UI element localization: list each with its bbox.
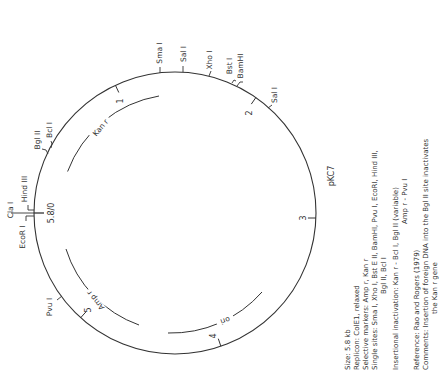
site-label-ecori: EcoR I [18, 225, 27, 248]
site-label-clai: Cla I [6, 202, 15, 219]
tick-2 [251, 98, 256, 105]
info-replicon: Replicon: ColE1, relaxed [353, 285, 361, 370]
site-label-xhoi: Xho I [205, 50, 214, 69]
tick-1 [115, 85, 118, 92]
origin-label: 5.8/0 [47, 203, 56, 224]
site-label-bcli: Bcl I [45, 122, 54, 138]
plasmid-map-figure: Kan r Amp r ori 5.8/0 1 2 3 [0, 0, 447, 374]
kan-gene-label: Kan r [88, 114, 112, 140]
tick-label-2: 2 [245, 110, 254, 115]
info-size: Size: 5.8 kb [344, 329, 352, 370]
tick-label-1: 1 [116, 98, 125, 103]
ori-arc [168, 292, 262, 333]
plasmid-name: pKC7 [327, 166, 336, 187]
site-label-hindiii: Hind III [20, 176, 29, 202]
site-tick-sali-2 [268, 105, 272, 108]
tick-label-5: 5 [84, 307, 93, 312]
info-block: Size: 5.8 kb Replicon: ColE1, relaxed Se… [344, 138, 439, 370]
info-reference: Reference: Rao and Rogers (1979) [413, 249, 421, 370]
info-markers: Selective markers: Amp r, Kan r [362, 259, 370, 370]
site-label-bglii: Bgl II [33, 131, 42, 150]
info-single-sites-1: Single sites: Sma I, Xho I, Bst E II, Ba… [371, 150, 379, 370]
tick-4 [218, 339, 221, 347]
info-single-sites-2: Bgl II, Bcl I [380, 257, 388, 294]
site-label-smai: Sma I [155, 42, 164, 63]
site-tick-xhoi [209, 71, 211, 76]
tick-label-3: 3 [299, 215, 308, 220]
site-label-bamhi: BamHI [236, 54, 245, 79]
kan-gene-arc-line [55, 180, 65, 262]
site-label-sali-1: Sal I [179, 46, 188, 62]
info-comments-1: Comments: Insertion of foreign DNA into … [422, 138, 430, 370]
tick-label-4: 4 [209, 333, 218, 338]
site-label-bsti: Bst I [225, 58, 234, 75]
site-label-pvui: Pvu I [45, 298, 54, 316]
info-comments-2: the Kan r gene [431, 262, 439, 314]
ori-gene-label: ori [215, 313, 235, 329]
site-tick-pvui [57, 296, 62, 300]
info-insertional-1: Insertional inactivation: Kan r - Bcl I,… [392, 187, 400, 370]
info-insertional-2: Amp r - Pvu I [401, 179, 409, 224]
plasmid-circle [34, 72, 316, 354]
site-label-sali-2: Sal I [270, 87, 279, 103]
